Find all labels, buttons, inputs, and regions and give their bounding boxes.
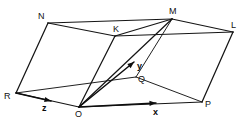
vertex-label-n: N — [38, 12, 45, 21]
axis-line-x — [79, 103, 156, 107]
vertex-label-l: L — [231, 21, 236, 30]
axis-arrowhead-x — [149, 101, 156, 106]
edge-N-R — [16, 23, 48, 93]
vertex-label-m: M — [169, 7, 177, 16]
vertex-label-q: Q — [138, 75, 145, 84]
edge-group — [16, 19, 233, 107]
axis-label-y: y — [137, 62, 142, 71]
vertex-label-p: P — [205, 100, 211, 109]
edge-K-O — [79, 36, 115, 107]
edge-N-M — [48, 19, 172, 23]
edge-K-L — [115, 32, 233, 36]
vertex-label-o: O — [75, 110, 82, 119]
edge-L-P — [202, 32, 233, 102]
axis-label-x: x — [153, 108, 158, 117]
axis-line-y — [79, 62, 134, 107]
edge-Q-P — [136, 77, 202, 102]
vertex-label-r: R — [4, 92, 11, 101]
edge-N-K — [48, 23, 115, 36]
vertex-label-k: K — [113, 25, 119, 34]
axis-label-z: z — [42, 104, 47, 113]
edge-M-L — [172, 19, 233, 32]
parallelepiped-diagram: NMLKROPQxyz — [0, 0, 245, 120]
edge-R-Q — [16, 77, 136, 93]
